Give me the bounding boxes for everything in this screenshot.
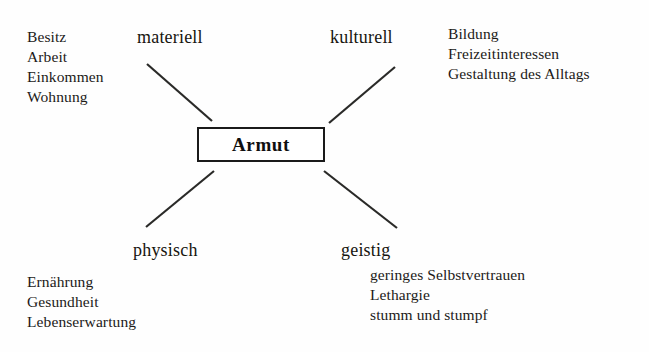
list-item: Gesundheit xyxy=(27,292,136,312)
branch-items-materiell: Besitz Arbeit Einkommen Wohnung xyxy=(27,27,104,107)
branch-label-kulturell[interactable]: kulturell xyxy=(330,27,393,48)
mindmap-canvas: Armut materiell kulturell physisch geist… xyxy=(0,0,649,352)
connector-materiell xyxy=(147,64,212,121)
list-item: Arbeit xyxy=(27,47,104,67)
list-item: Gestaltung des Alltags xyxy=(448,64,590,84)
list-item: stumm und stumpf xyxy=(370,305,525,325)
connector-physisch xyxy=(146,171,214,227)
list-item: Wohnung xyxy=(27,87,104,107)
center-node-label: Armut xyxy=(232,134,290,156)
branch-label-physisch[interactable]: physisch xyxy=(133,240,198,261)
list-item: Lethargie xyxy=(370,285,525,305)
connector-geistig xyxy=(324,171,397,228)
list-item: Bildung xyxy=(448,24,590,44)
list-item: Besitz xyxy=(27,27,104,47)
center-node-armut[interactable]: Armut xyxy=(197,127,325,162)
list-item: Freizeitinteressen xyxy=(448,44,590,64)
branch-items-physisch: Ernährung Gesundheit Lebenserwartung xyxy=(27,272,136,332)
list-item: Lebenserwartung xyxy=(27,312,136,332)
branch-label-materiell[interactable]: materiell xyxy=(137,27,203,48)
list-item: Ernährung xyxy=(27,272,136,292)
list-item: Einkommen xyxy=(27,67,104,87)
branch-label-geistig[interactable]: geistig xyxy=(341,240,390,261)
connector-kulturell xyxy=(329,67,395,123)
branch-items-kulturell: Bildung Freizeitinteressen Gestaltung de… xyxy=(448,24,590,84)
branch-items-geistig: geringes Selbstvertrauen Lethargie stumm… xyxy=(370,265,525,325)
list-item: geringes Selbstvertrauen xyxy=(370,265,525,285)
